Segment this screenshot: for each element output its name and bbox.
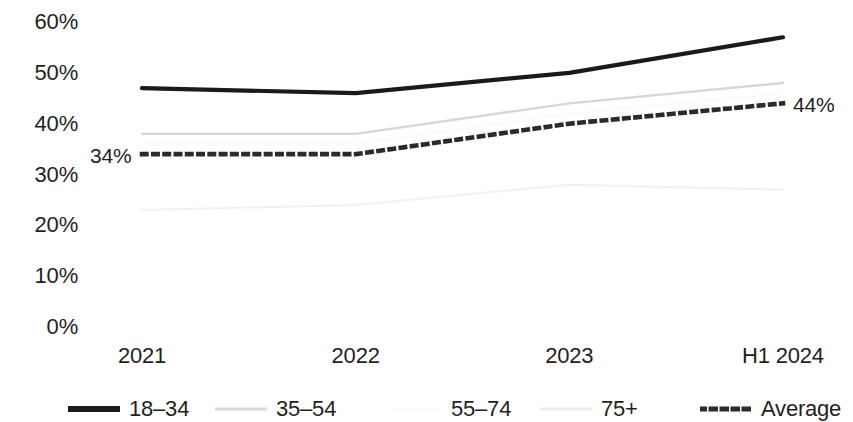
- series-line-18-34: [142, 37, 783, 93]
- legend-swatch-icon: [540, 402, 592, 416]
- legend-label: 75+: [601, 398, 638, 420]
- legend-swatch-icon: [68, 402, 120, 416]
- chart-legend: 18–3435–5455–7475+Average: [0, 396, 853, 422]
- legend-item-35-54[interactable]: 35–54: [215, 396, 336, 422]
- legend-label: 55–74: [451, 398, 511, 420]
- legend-label: 18–34: [129, 398, 189, 420]
- legend-label: Average: [761, 398, 841, 420]
- line-chart: 60%50%40%30%20%10%0% 34% 44% 20212022202…: [0, 0, 853, 422]
- legend-label: 35–54: [276, 398, 336, 420]
- series-line-75-: [142, 185, 783, 210]
- legend-swatch-icon: [390, 402, 442, 416]
- legend-swatch-icon: [700, 402, 752, 416]
- plot-svg: [0, 0, 853, 380]
- legend-item-18-34[interactable]: 18–34: [68, 396, 189, 422]
- legend-swatch-icon: [215, 402, 267, 416]
- data-label-left: 34%: [90, 145, 131, 166]
- legend-item-75-[interactable]: 75+: [540, 396, 638, 422]
- legend-item-55-74[interactable]: 55–74: [390, 396, 511, 422]
- x-tick-label: 2022: [332, 345, 380, 367]
- x-tick-label: 2023: [545, 345, 593, 367]
- x-axis: 202120222023H1 2024: [0, 340, 853, 370]
- data-label-right: 44%: [793, 94, 834, 115]
- plot-area: [0, 0, 853, 380]
- legend-item-average[interactable]: Average: [700, 396, 841, 422]
- x-tick-label: H1 2024: [742, 345, 824, 367]
- x-tick-label: 2021: [118, 345, 166, 367]
